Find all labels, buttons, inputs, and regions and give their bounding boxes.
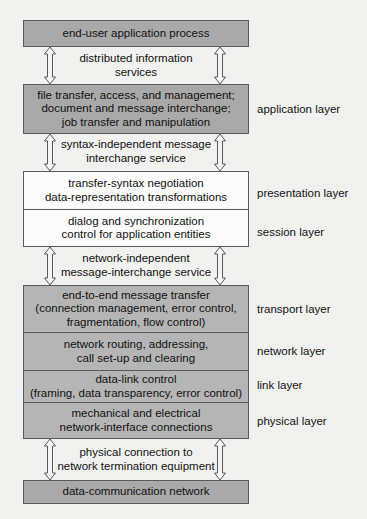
layer-line: network-interface connections	[60, 421, 213, 435]
layer-line: (connection management, error control,	[35, 302, 236, 316]
transport-layer-label: transport layer	[257, 302, 331, 316]
layer-line: control for application entities	[62, 228, 211, 242]
network-layer-label: network layer	[257, 344, 325, 358]
double-arrow-shape-left	[45, 439, 56, 480]
service-line: services	[52, 66, 220, 80]
service-line: message-interchange service	[52, 266, 220, 280]
physical-layer-box: mechanical and electrical network-interf…	[23, 402, 249, 439]
service-line: physical connection to	[52, 446, 220, 460]
service-distributed-information: distributed information services	[52, 52, 220, 79]
service-line: network-independent	[52, 252, 220, 266]
end-user-application-process-label: end-user application process	[62, 27, 209, 41]
service-line: syntax-independent message	[52, 138, 220, 152]
layer-line: fragmentation, flow control)	[35, 316, 236, 330]
double-arrow-shape-right	[215, 47, 226, 84]
double-arrow-shape-right	[215, 134, 226, 171]
service-line: network termination equipment	[52, 460, 220, 474]
network-layer-box: network routing, addressing, call set-up…	[23, 332, 249, 371]
layer-line: file transfer, access, and management;	[37, 89, 235, 103]
double-arrow-icon	[44, 247, 56, 285]
layer-line: data-representation transformations	[45, 191, 227, 205]
layer-line: transfer-syntax negotiation	[45, 177, 227, 191]
double-arrow-icon	[214, 47, 226, 84]
layer-line: call set-up and clearing	[64, 352, 208, 366]
application-layer-box: file transfer, access, and management; d…	[23, 84, 249, 134]
double-arrow-shape-right	[215, 247, 226, 285]
double-arrow-icon	[44, 47, 56, 84]
service-network-independent: network-independent message-interchange …	[52, 252, 220, 279]
presentation-layer-box: transfer-syntax negotiation data-represe…	[23, 171, 249, 210]
layer-line: network routing, addressing,	[64, 338, 208, 352]
double-arrow-shape-right	[215, 439, 226, 480]
presentation-layer-label: presentation layer	[257, 186, 348, 200]
session-layer-box: dialog and synchronization control for a…	[23, 209, 249, 247]
session-layer-label: session layer	[257, 225, 324, 239]
service-syntax-independent: syntax-independent message interchange s…	[52, 138, 220, 165]
physical-layer-label: physical layer	[257, 414, 327, 428]
transport-layer-box: end-to-end message transfer (connection …	[23, 285, 249, 333]
double-arrow-icon	[214, 439, 226, 480]
application-layer-label: application layer	[257, 102, 340, 116]
double-arrow-icon	[214, 134, 226, 171]
layer-line: data-link control	[30, 373, 242, 387]
link-layer-label: link layer	[257, 378, 302, 392]
double-arrow-shape-left	[45, 134, 56, 171]
data-communication-network-label: data-communication network	[62, 485, 209, 499]
layer-line: dialog and synchronization	[62, 215, 211, 229]
service-line: distributed information	[52, 52, 220, 66]
layer-line: mechanical and electrical	[60, 407, 213, 421]
double-arrow-icon	[214, 247, 226, 285]
double-arrow-shape-left	[45, 247, 56, 285]
layer-line: job transfer and manipulation	[37, 116, 235, 130]
link-layer-box: data-link control (framing, data transpa…	[23, 370, 249, 403]
data-communication-network-box: data-communication network	[23, 480, 249, 504]
service-line: interchange service	[52, 152, 220, 166]
double-arrow-icon	[44, 134, 56, 171]
end-user-application-process-box: end-user application process	[23, 20, 249, 47]
service-physical-connection: physical connection to network terminati…	[52, 446, 220, 473]
double-arrow-shape-left	[45, 47, 56, 84]
layer-line: document and message interchange;	[37, 102, 235, 116]
layer-line: (framing, data transparency, error contr…	[30, 387, 242, 401]
layer-line: end-to-end message transfer	[35, 289, 236, 303]
double-arrow-icon	[44, 439, 56, 480]
